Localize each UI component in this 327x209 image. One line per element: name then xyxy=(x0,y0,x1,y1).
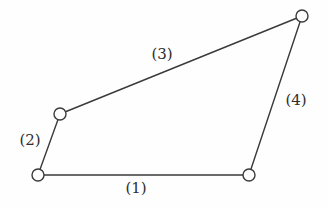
link-3-line xyxy=(60,16,302,114)
link-1-label: (1) xyxy=(125,181,146,196)
joint-c-icon xyxy=(296,10,308,22)
link-2-line xyxy=(38,114,60,175)
linkage-diagram: (1) (2) (3) (4) xyxy=(0,0,327,209)
link-3-label: (3) xyxy=(151,47,172,62)
joint-b-icon xyxy=(54,108,66,120)
linkage-drawing xyxy=(0,0,327,209)
link-2-label: (2) xyxy=(19,133,40,148)
joint-a-icon xyxy=(32,169,44,181)
link-4-label: (4) xyxy=(285,93,306,108)
joint-d-icon xyxy=(243,169,255,181)
